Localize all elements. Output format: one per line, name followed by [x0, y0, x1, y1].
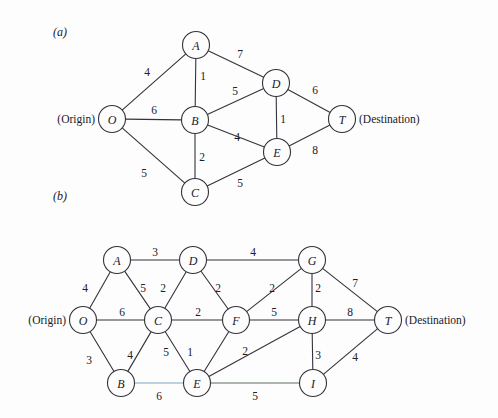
node-A[interactable]: A [104, 247, 131, 274]
node-label-E: E [272, 146, 281, 160]
network-diagram-figure: 465172545168OABCDET(a)(Origin)(Destinati… [0, 0, 498, 418]
edge-weight-C-E: 5 [163, 346, 169, 358]
edge-O-A[interactable] [122, 54, 186, 110]
edge-weight-H-I: 3 [315, 349, 321, 361]
edge-weight-I-T: 4 [352, 351, 358, 363]
edge-weight-A-B: 1 [200, 70, 206, 82]
edge-O-B[interactable] [90, 332, 114, 372]
edge-weight-A-D: 3 [152, 246, 158, 258]
panel-a-caption: (a) [53, 25, 67, 39]
edge-weight-C-B: 4 [127, 349, 133, 361]
node-E[interactable]: E [184, 370, 211, 397]
edge-weight-D-F: 2 [215, 282, 221, 294]
node-B[interactable]: B [108, 370, 135, 397]
edge-O-C[interactable] [122, 128, 185, 183]
edge-weight-O-A: 4 [144, 66, 150, 78]
node-label-D: D [188, 254, 198, 268]
node-label-E: E [192, 377, 201, 391]
edge-F-E[interactable] [204, 331, 229, 371]
node-F[interactable]: F [223, 307, 250, 334]
edge-D-E[interactable] [276, 97, 277, 139]
panel-b-origin-caption: (Origin) [28, 314, 66, 327]
edge-weight-H-T: 8 [347, 306, 353, 318]
node-D[interactable]: D [180, 247, 207, 274]
edge-O-B[interactable] [126, 119, 182, 120]
node-label-B: B [117, 377, 125, 391]
edge-weight-A-D: 7 [237, 48, 243, 60]
node-label-C: C [191, 186, 200, 200]
node-D[interactable]: D [263, 70, 290, 97]
edge-weight-C-E: 5 [237, 177, 243, 189]
edge-H-I[interactable] [312, 334, 313, 370]
edge-H-E[interactable] [209, 326, 300, 376]
edge-weight-G-H: 2 [315, 282, 321, 294]
node-label-A: A [112, 254, 121, 268]
edge-C-D[interactable] [165, 272, 186, 309]
node-label-A: A [191, 39, 200, 53]
edge-weight-E-T: 8 [312, 144, 318, 156]
edge-E-T[interactable] [289, 125, 330, 146]
edge-weight-B-D: 5 [232, 85, 238, 97]
edge-C-E[interactable] [207, 158, 265, 186]
panel-b-destination-caption: (Destination) [405, 314, 466, 327]
node-label-O: O [79, 314, 88, 328]
edge-weight-C-F: 2 [195, 306, 201, 318]
edge-weight-O-C: 5 [141, 167, 147, 179]
node-label-G: G [308, 254, 317, 268]
edge-O-A[interactable] [90, 272, 111, 309]
edge-A-C[interactable] [125, 271, 151, 309]
node-A[interactable]: A [183, 32, 210, 59]
node-T[interactable]: T [329, 106, 356, 133]
edge-weight-F-E: 1 [187, 346, 193, 358]
node-O[interactable]: O [70, 307, 97, 334]
node-B[interactable]: B [182, 107, 209, 134]
edge-weight-H-E: 2 [242, 345, 248, 357]
node-G[interactable]: G [299, 247, 326, 274]
edge-weight-D-T: 6 [312, 84, 318, 96]
edge-weight-D-G: 4 [250, 246, 256, 258]
panel-a-origin-caption: (Origin) [57, 113, 95, 126]
edge-I-T[interactable] [323, 329, 377, 375]
node-label-B: B [191, 114, 199, 128]
edge-weight-O-A: 4 [82, 282, 88, 294]
edge-weight-A-C: 5 [140, 282, 146, 294]
edge-weight-B-E: 4 [234, 131, 240, 143]
node-E[interactable]: E [264, 139, 291, 166]
node-T[interactable]: T [375, 307, 402, 334]
edge-weight-C-D: 2 [160, 282, 166, 294]
panel-a-destination-caption: (Destination) [359, 113, 420, 126]
edge-weight-F-H: 5 [271, 306, 277, 318]
node-label-D: D [271, 77, 281, 91]
edge-A-D[interactable] [208, 51, 264, 77]
node-label-O: O [108, 113, 117, 127]
panel-a: 465172545168OABCDET(a)(Origin)(Destinati… [53, 25, 420, 206]
node-label-C: C [154, 314, 163, 328]
node-C[interactable]: C [182, 179, 209, 206]
edge-D-T[interactable] [288, 89, 330, 112]
panel-b: 4633524254221527823465OABCDEFGHIT(b)(Ori… [28, 189, 466, 402]
edge-A-B[interactable] [195, 59, 196, 107]
edge-weight-B-C: 2 [199, 151, 205, 163]
edge-weight-O-C: 6 [119, 306, 125, 318]
edge-weight-O-B: 3 [86, 354, 92, 366]
edge-weight-F-G: 2 [269, 282, 275, 294]
edge-weight-O-B: 6 [151, 104, 157, 116]
edge-weight-G-T: 7 [352, 277, 358, 289]
node-label-H: H [307, 314, 318, 328]
node-H[interactable]: H [299, 307, 326, 334]
panel-b-caption: (b) [53, 189, 67, 203]
node-O[interactable]: O [99, 106, 126, 133]
node-I[interactable]: I [300, 370, 327, 397]
node-label-F: F [231, 314, 240, 328]
edge-weight-B-E: 6 [156, 390, 162, 402]
node-C[interactable]: C [145, 307, 172, 334]
edge-weight-E-I: 5 [252, 390, 258, 402]
edge-weight-D-E: 1 [280, 113, 286, 125]
network-diagram-canvas: 465172545168OABCDET(a)(Origin)(Destinati… [0, 0, 498, 418]
